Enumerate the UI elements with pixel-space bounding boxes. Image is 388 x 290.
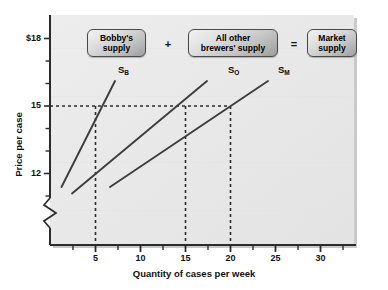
callout-bobbys-line2: supply [103, 43, 130, 54]
xtick-label-10: 10 [126, 253, 155, 263]
curve-label-so: SO [228, 64, 239, 75]
xtick-label-15: 15 [171, 253, 200, 263]
supply-curve-figure: Bobby's supply + All other brewers' supp… [0, 0, 388, 290]
y-axis-title: Price per case [13, 100, 24, 190]
callout-all-other-line1: All other [216, 33, 250, 44]
curve-label-sm-sub: M [284, 69, 289, 76]
callout-bobbys-line1: Bobby's [100, 33, 133, 44]
ytick-label-18: $18 [8, 33, 41, 43]
callout-market-line1: Market [318, 33, 345, 44]
plus-operator: + [161, 38, 175, 50]
curve-label-sm: SM [278, 64, 290, 75]
equals-operator: = [287, 38, 301, 50]
xtick-label-30: 30 [306, 253, 335, 263]
callout-market-line2: supply [318, 43, 345, 54]
xtick-label-5: 5 [81, 253, 110, 263]
callout-all-other-line2: brewers' supply [201, 43, 265, 54]
x-axis-title: Quantity of cases per week [0, 268, 388, 279]
xtick-label-20: 20 [216, 253, 245, 263]
curve-label-so-sub: O [234, 69, 239, 76]
curve-label-sb-sub: B [124, 69, 129, 76]
callout-bobbys-supply: Bobby's supply [87, 29, 146, 57]
xtick-label-25: 25 [261, 253, 290, 263]
callout-market-supply: Market supply [307, 29, 357, 57]
callout-all-other-brewers-supply: All other brewers' supply [188, 29, 278, 57]
curve-label-sb: SB [118, 64, 129, 75]
